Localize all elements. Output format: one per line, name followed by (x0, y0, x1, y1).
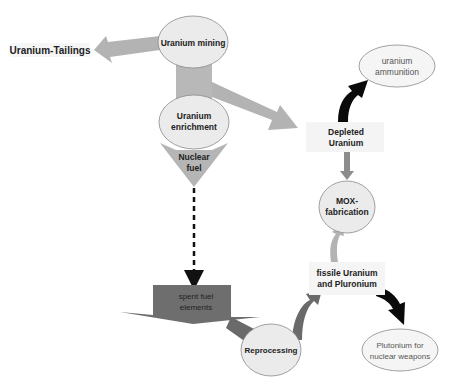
node-uranium-ammunition: uranium ammunition (359, 45, 435, 87)
node-depleted-uranium: Depleted Uranium (306, 122, 384, 152)
node-uranium-mining: Uranium mining (158, 16, 228, 68)
label-fissile-line1: fissile Uranium (317, 268, 378, 278)
label-plutonium-line2: nuclear weapons (370, 352, 430, 361)
label-fuel-line1: Nuclear (178, 152, 210, 162)
label-uranium-tailings: Uranium-Tailings (10, 45, 91, 56)
label-spent-line1: spent fuel (179, 292, 214, 301)
label-plutonium-line1: Plutonium for (376, 341, 423, 350)
node-uranium-tailings: Uranium-Tailings (10, 43, 91, 57)
node-reprocessing: Reprocessing (241, 324, 301, 376)
arrow-depleted-to-mox (340, 152, 354, 180)
label-fuel-line2: fuel (186, 163, 201, 173)
label-spent-line2: elements (180, 303, 212, 312)
nuclear-fuel-cycle-diagram: Uranium mining Uranium enrichment Nuclea… (0, 0, 456, 391)
arrow-mining-to-tailings (94, 36, 160, 63)
label-reprocessing: Reprocessing (245, 346, 298, 355)
label-uranium-mining: Uranium mining (161, 38, 226, 48)
label-enrichment-line1: Uranium (177, 111, 212, 121)
arrow-reprocessing-to-fissile (292, 290, 322, 340)
label-depleted-line1: Depleted (328, 127, 364, 137)
node-fissile-uranium-plutonium: fissile Uranium and Pluronium (309, 262, 385, 295)
node-uranium-enrichment: Uranium enrichment (159, 95, 229, 149)
label-enrichment-line2: enrichment (171, 122, 217, 132)
label-depleted-line2: Uranium (329, 138, 364, 148)
label-mox-line1: MOX- (336, 196, 358, 206)
arrow-depleted-to-ammunition (338, 80, 368, 122)
label-mox-line2: fabrication (325, 207, 368, 217)
node-mox-fabrication: MOX- fabrication (319, 181, 375, 233)
label-fissile-line2: and Pluronium (317, 279, 377, 289)
label-ammunition-line2: ammunition (375, 67, 419, 77)
label-ammunition-line1: uranium (382, 56, 413, 66)
node-plutonium-weapons: Plutonium for nuclear weapons (362, 329, 438, 371)
